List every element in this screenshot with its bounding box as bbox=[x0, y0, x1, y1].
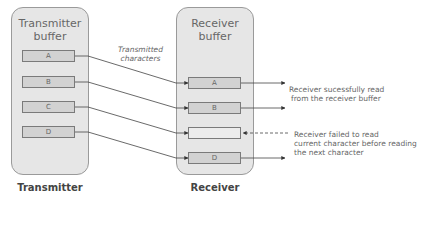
transmitted-line2: characters bbox=[118, 54, 163, 63]
failed-line2: current character before reading bbox=[294, 139, 417, 148]
success-line2: from the receiver buffer bbox=[289, 94, 384, 103]
arrow-c bbox=[75, 107, 188, 133]
success-line1: Receiver sucessfully read bbox=[289, 85, 384, 94]
failed-line1: Receiver failed to read bbox=[294, 130, 417, 139]
arrow-b bbox=[75, 82, 188, 108]
arrow-d bbox=[75, 132, 188, 158]
failed-note: Receiver failed to read current characte… bbox=[294, 130, 417, 157]
success-note: Receiver sucessfully read from the recei… bbox=[289, 85, 384, 103]
transmitter-label: Transmitter bbox=[11, 182, 89, 193]
receiver-label: Receiver bbox=[176, 182, 254, 193]
transmitted-characters-label: Transmitted characters bbox=[118, 45, 163, 63]
failed-line3: the next character bbox=[294, 148, 417, 157]
transmitted-line1: Transmitted bbox=[118, 45, 163, 54]
